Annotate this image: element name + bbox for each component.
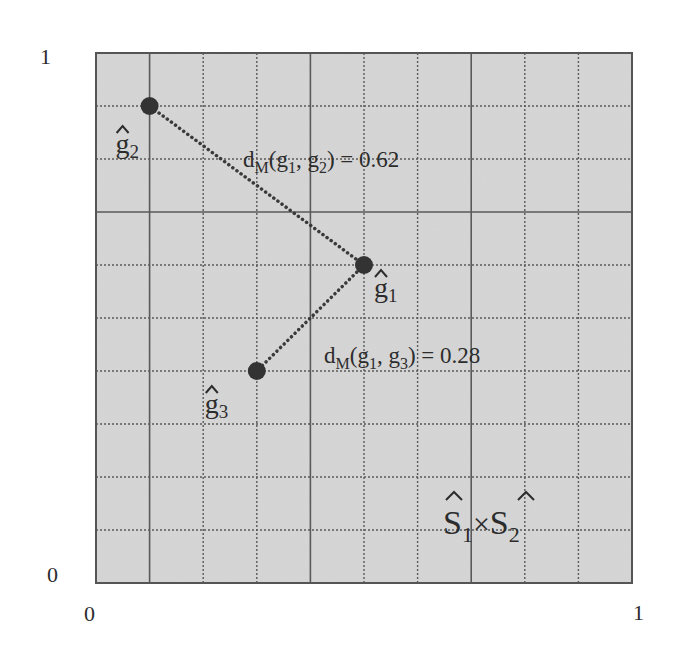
region-label-sub1: 1: [462, 522, 473, 547]
y-tick-label-0: 0: [47, 562, 58, 587]
y-tick-label-1: 1: [40, 44, 51, 69]
region-label-base2: S: [490, 504, 509, 541]
x-tick-label-1: 1: [633, 600, 644, 625]
region-label-base1: S: [443, 504, 462, 541]
point-g1: [355, 256, 373, 274]
point-g2: [141, 97, 159, 115]
point-g3: [248, 362, 266, 380]
metric-space-diagram: dM(g1, g2) = 0.62dM(g1, g3) = 0.28 g1g2g…: [0, 0, 680, 656]
x-tick-label-0: 0: [84, 601, 95, 626]
region-label-sub2: 2: [509, 522, 520, 547]
region-label-times: ×: [473, 507, 490, 540]
